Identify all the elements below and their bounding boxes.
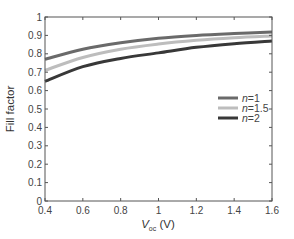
- fill-factor-chart: 0.40.60.811.21.41.6 00.10.20.30.40.50.60…: [0, 0, 294, 239]
- plot-lines: [45, 32, 272, 81]
- y-tick-label: 1: [36, 12, 42, 23]
- x-tick-label: 0.6: [76, 205, 90, 216]
- y-tick-label: 0.4: [28, 122, 42, 133]
- y-tick-label: 0.7: [28, 67, 42, 78]
- y-tick-label: 0.3: [28, 140, 42, 151]
- legend: n=1n=1.5n=2: [218, 92, 269, 124]
- x-tick-label: 0.8: [114, 205, 128, 216]
- x-tick-label: 0.4: [38, 205, 52, 216]
- x-axis-label: Voc (V): [141, 218, 175, 232]
- y-tick-label: 0.6: [28, 85, 42, 96]
- x-tick-label: 1.6: [265, 205, 279, 216]
- y-tick-label: 0.8: [28, 48, 42, 59]
- y-tick-label: 0.2: [28, 159, 42, 170]
- y-tick-label: 0: [36, 196, 42, 207]
- y-axis-label: Fill factor: [4, 86, 16, 133]
- x-tick-label: 1: [156, 205, 162, 216]
- legend-label: n=2: [242, 112, 260, 124]
- y-tick-label: 0.9: [28, 30, 42, 41]
- series-line: [45, 41, 272, 81]
- y-tick-label: 0.5: [28, 104, 42, 115]
- y-tick-label: 0.1: [28, 177, 42, 188]
- x-tick-label: 1.2: [189, 205, 203, 216]
- x-tick-label: 1.4: [227, 205, 241, 216]
